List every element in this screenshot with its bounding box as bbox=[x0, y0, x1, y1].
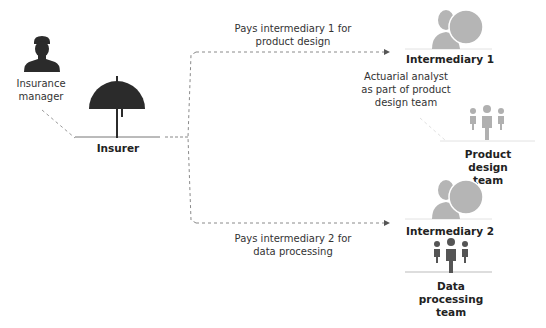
edge1-line1: Pays intermediary 1 for bbox=[218, 22, 368, 35]
intermediary1-label: Intermediary 1 bbox=[400, 53, 500, 65]
edge2-line1: Pays intermediary 2 for bbox=[218, 232, 368, 245]
actuarial-line1: Actuarial analyst bbox=[356, 70, 456, 83]
edge-label-intermediary2: Pays intermediary 2 for data processing bbox=[218, 232, 368, 258]
data-processing-team-label: Data processing team bbox=[415, 280, 487, 319]
dpt-line1: Data bbox=[415, 280, 487, 293]
insurance-manager-line1: Insurance bbox=[4, 77, 78, 90]
intermediary2-label: Intermediary 2 bbox=[400, 225, 500, 237]
person-icon bbox=[22, 36, 62, 72]
edge2-line2: data processing bbox=[218, 245, 368, 258]
branch-connector bbox=[188, 52, 196, 223]
pdt-line2: design bbox=[456, 161, 520, 174]
insurer-label: Insurer bbox=[90, 142, 146, 154]
arrowhead-icon bbox=[384, 220, 390, 226]
umbrella-icon bbox=[87, 76, 147, 138]
edge1-line2: product design bbox=[218, 35, 368, 48]
actuarial-line3: design team bbox=[356, 96, 456, 109]
group-icon bbox=[431, 238, 471, 273]
insurance-manager-line2: manager bbox=[4, 90, 78, 103]
pdt-line1: Product bbox=[456, 148, 520, 161]
insurance-manager-label: Insurance manager bbox=[4, 77, 78, 103]
dpt-line2: processing bbox=[415, 293, 487, 306]
manager-connector bbox=[42, 110, 75, 138]
actuarial-analyst-label: Actuarial analyst as part of product des… bbox=[356, 70, 456, 109]
person-with-circle-icon bbox=[428, 178, 488, 220]
edge-label-intermediary1: Pays intermediary 1 for product design bbox=[218, 22, 368, 48]
group-icon bbox=[467, 105, 507, 140]
dpt-line3: team bbox=[415, 306, 487, 319]
actuarial-line2: as part of product bbox=[356, 83, 456, 96]
person-with-circle-icon bbox=[428, 8, 488, 50]
arrowhead-icon bbox=[384, 49, 390, 55]
